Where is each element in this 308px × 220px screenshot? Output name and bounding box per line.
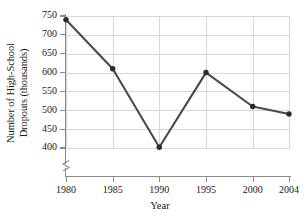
gridline-y-750 <box>66 16 290 17</box>
chart-figure: Number of High-School Dropouts (thousand… <box>0 0 308 220</box>
x-tick-label-1995: 1995 <box>196 184 216 195</box>
y-tick-label-450: 450 <box>42 124 57 134</box>
x-tick-label-2004: 2004 <box>279 184 299 195</box>
gridline-y-400 <box>66 148 290 149</box>
x-tick-label-1980: 1980 <box>56 184 76 195</box>
x-tick-2004 <box>289 177 290 182</box>
gridline-x-1985 <box>113 16 114 148</box>
y-tick-label-400: 400 <box>42 142 57 152</box>
x-axis-title: Year <box>0 200 308 211</box>
y-tick-700 <box>60 34 65 35</box>
gridline-y-650 <box>66 54 290 55</box>
y-axis-title-line-2: Dropouts (thousands) <box>17 43 30 143</box>
y-tick-650 <box>60 53 65 54</box>
gridline-y-550 <box>66 91 290 92</box>
gridline-y-700 <box>66 35 290 36</box>
gridline-y-500 <box>66 110 290 111</box>
gridline-x-2000 <box>253 16 254 148</box>
x-axis-line <box>65 176 291 177</box>
x-tick-1980 <box>66 177 67 182</box>
axis-break-icon <box>61 160 71 171</box>
y-axis-title: Number of High-School Dropouts (thousand… <box>0 0 34 185</box>
y-tick-400 <box>60 147 65 148</box>
y-tick-label-750: 750 <box>42 10 57 20</box>
gridline-x-1995 <box>206 16 207 148</box>
y-tick-550 <box>60 91 65 92</box>
gridline-x-1990 <box>159 16 160 148</box>
x-axis-title-text: Year <box>150 200 169 211</box>
x-tick-label-1990: 1990 <box>149 184 169 195</box>
gridline-y-600 <box>66 73 290 74</box>
y-axis-title-line-1: Number of High-School <box>4 43 17 143</box>
x-tick-1985 <box>113 177 114 182</box>
gridline-y-450 <box>66 129 290 130</box>
y-tick-600 <box>60 72 65 73</box>
y-tick-label-700: 700 <box>42 29 57 39</box>
y-tick-label-500: 500 <box>42 105 57 115</box>
y-tick-label-650: 650 <box>42 48 57 58</box>
y-tick-label-600: 600 <box>42 67 57 77</box>
y-tick-750 <box>60 15 65 16</box>
x-tick-1995 <box>206 177 207 182</box>
y-tick-label-550: 550 <box>42 86 57 96</box>
y-tick-500 <box>60 110 65 111</box>
x-tick-1990 <box>159 177 160 182</box>
y-tick-450 <box>60 129 65 130</box>
x-tick-label-1985: 1985 <box>103 184 123 195</box>
plot-area <box>66 16 290 148</box>
gridline-x-2004 <box>289 16 290 148</box>
x-tick-2000 <box>253 177 254 182</box>
x-tick-label-2000: 2000 <box>243 184 263 195</box>
y-axis-line <box>65 14 66 164</box>
